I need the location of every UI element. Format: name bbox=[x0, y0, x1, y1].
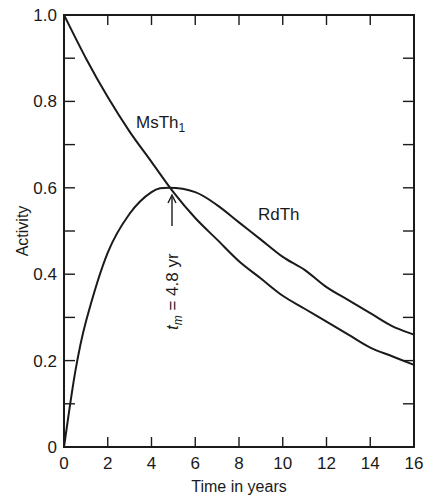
axis-ticks: 024681012141600.20.40.60.81.0 bbox=[33, 6, 423, 473]
x-tick-label: 2 bbox=[103, 454, 112, 473]
x-tick-label: 0 bbox=[59, 454, 68, 473]
y-tick-label: 0.2 bbox=[33, 352, 57, 371]
x-tick-label: 12 bbox=[317, 454, 336, 473]
y-tick-label: 1.0 bbox=[33, 6, 57, 25]
rdth-curve bbox=[64, 188, 414, 447]
activity-chart: 024681012141600.20.40.60.81.0 MsTh1 RdTh… bbox=[0, 0, 430, 501]
msth1-curve-label: MsTh1 bbox=[136, 113, 186, 135]
plot-frame bbox=[64, 15, 414, 447]
y-axis-label: Activity bbox=[14, 206, 31, 257]
x-tick-label: 10 bbox=[273, 454, 292, 473]
tm-annotation-label: tm = 4.8 yr bbox=[163, 253, 185, 330]
curves bbox=[64, 15, 414, 447]
x-axis-label: Time in years bbox=[191, 478, 286, 495]
x-tick-label: 14 bbox=[361, 454, 380, 473]
x-tick-label: 8 bbox=[234, 454, 243, 473]
x-tick-label: 6 bbox=[191, 454, 200, 473]
x-tick-label: 16 bbox=[405, 454, 424, 473]
y-tick-label: 0.4 bbox=[33, 265, 57, 284]
plot-border bbox=[64, 15, 414, 447]
tm-annotation: tm = 4.8 yr bbox=[163, 195, 185, 330]
y-tick-label: 0 bbox=[48, 438, 57, 457]
y-tick-label: 0.6 bbox=[33, 179, 57, 198]
x-tick-label: 4 bbox=[147, 454, 156, 473]
rdth-curve-label: RdTh bbox=[258, 205, 300, 224]
y-tick-label: 0.8 bbox=[33, 92, 57, 111]
msth1-curve bbox=[64, 15, 414, 365]
